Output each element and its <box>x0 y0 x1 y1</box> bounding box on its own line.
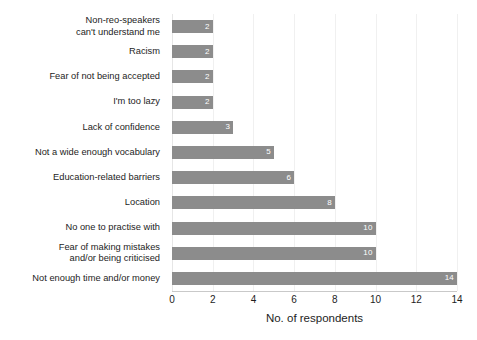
bar: 3 <box>172 121 233 134</box>
category-label: Lack of confidence <box>0 115 166 140</box>
bar-value-label: 2 <box>205 98 213 106</box>
category-label: Not a wide enough vocabulary <box>0 140 166 165</box>
category-label: Non-reo-speakers can't understand me <box>0 14 166 39</box>
gridline-x-14 <box>457 14 458 291</box>
bar-value-label: 10 <box>363 224 375 232</box>
bar-rows: 22223568101014 <box>172 14 457 291</box>
x-axis-title: No. of respondents <box>172 312 457 324</box>
bar: 10 <box>172 222 376 235</box>
category-label: Racism <box>0 39 166 64</box>
category-label: Education-related barriers <box>0 165 166 190</box>
x-tick-label-6: 6 <box>291 294 297 305</box>
category-label: I'm too lazy <box>0 90 166 115</box>
bar-value-label: 2 <box>205 48 213 56</box>
bar-value-label: 6 <box>286 174 294 182</box>
bar-value-label: 3 <box>225 123 233 131</box>
bar: 2 <box>172 45 213 58</box>
x-tick-label-2: 2 <box>210 294 216 305</box>
bar: 8 <box>172 196 335 209</box>
bar: 2 <box>172 70 213 83</box>
bar-value-label: 2 <box>205 23 213 31</box>
bar-row: 5 <box>172 140 457 165</box>
bar-value-label: 2 <box>205 73 213 81</box>
bar: 10 <box>172 247 376 260</box>
bar-row: 10 <box>172 215 457 240</box>
x-tick-label-12: 12 <box>411 294 422 305</box>
x-tick-label-8: 8 <box>332 294 338 305</box>
category-label: Fear of not being accepted <box>0 64 166 89</box>
x-axis-tick-labels: 02468101214 <box>172 294 457 310</box>
bar-value-label: 8 <box>327 199 335 207</box>
bar-row: 8 <box>172 190 457 215</box>
category-axis-labels: Non-reo-speakers can't understand meRaci… <box>0 14 166 291</box>
category-label: Fear of making mistakes and/or being cri… <box>0 241 166 266</box>
bar-row: 2 <box>172 39 457 64</box>
bar-row: 3 <box>172 115 457 140</box>
bar-row: 14 <box>172 266 457 291</box>
category-label: No one to practise with <box>0 215 166 240</box>
plot-area: 22223568101014 <box>172 14 457 291</box>
bar: 14 <box>172 272 457 285</box>
bar-value-label: 10 <box>363 249 375 257</box>
bar-row: 10 <box>172 241 457 266</box>
bar: 6 <box>172 171 294 184</box>
bar-chart-figure: Non-reo-speakers can't understand meRaci… <box>0 0 477 340</box>
x-tick-label-4: 4 <box>251 294 257 305</box>
bar-row: 2 <box>172 64 457 89</box>
x-tick-label-14: 14 <box>451 294 462 305</box>
bar: 2 <box>172 96 213 109</box>
bar-value-label: 14 <box>445 274 457 282</box>
x-axis-line <box>172 291 457 292</box>
bar-row: 2 <box>172 90 457 115</box>
category-label: Not enough time and/or money <box>0 266 166 291</box>
bar: 5 <box>172 146 274 159</box>
x-tick-label-0: 0 <box>169 294 175 305</box>
bar-row: 6 <box>172 165 457 190</box>
bar-value-label: 5 <box>266 148 274 156</box>
bar: 2 <box>172 20 213 33</box>
bar-row: 2 <box>172 14 457 39</box>
category-label: Location <box>0 190 166 215</box>
x-tick-label-10: 10 <box>370 294 381 305</box>
